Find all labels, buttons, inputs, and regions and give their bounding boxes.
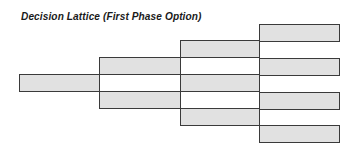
lattice-node-stage4-1 [259, 24, 340, 42]
lattice-node-stage2-1 [99, 57, 181, 75]
lattice-node-stage3-2 [180, 74, 260, 92]
lattice-node-stage1-1 [19, 74, 100, 92]
lattice-node-stage4-2 [259, 58, 340, 76]
lattice-node-stage2-2 [99, 91, 181, 109]
lattice-node-stage3-3 [180, 108, 260, 126]
lattice-node-stage4-4 [259, 125, 340, 143]
diagram-title: Decision Lattice (First Phase Option) [21, 10, 202, 22]
lattice-node-stage3-1 [180, 40, 260, 58]
lattice-node-stage4-3 [259, 92, 340, 110]
